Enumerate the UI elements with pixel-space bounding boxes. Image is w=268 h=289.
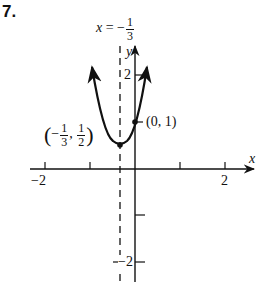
y-intercept-label: (0, 1) [146, 115, 176, 129]
tick-label-y-pos2: 2 [124, 68, 131, 82]
tick-label-y-neg2: −2 [118, 255, 133, 269]
axis-of-symmetry-label: x = −13 [96, 16, 135, 42]
fraction: 13 [126, 16, 134, 42]
tick-label-x-neg2: −2 [31, 174, 46, 188]
y-axis-label: y [126, 45, 132, 59]
vertex-label: (−13, 12) [44, 122, 94, 148]
graph-canvas [0, 0, 268, 289]
tick-label-x-pos2: 2 [221, 174, 228, 188]
x-axis-label: x [249, 152, 255, 166]
vertex-point [117, 142, 123, 148]
